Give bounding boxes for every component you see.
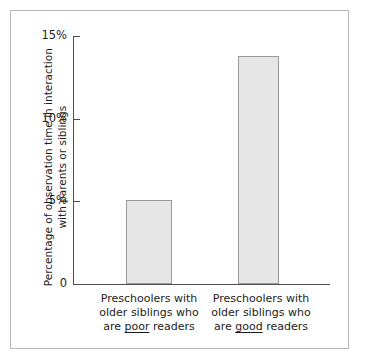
- cat-1-emphasis: good: [235, 320, 262, 333]
- y-tick-label-15-wrap: 15%: [0, 30, 67, 42]
- cat-0-emphasis: poor: [125, 320, 150, 333]
- y-tick-mark-5: [73, 201, 80, 202]
- cat-1-line-1: Preschoolers with: [192, 292, 330, 306]
- y-tick-mark-10: [73, 119, 80, 120]
- cat-0-line-3-pre: are: [103, 320, 124, 333]
- y-tick-mark-15: [73, 36, 80, 37]
- bar-poor-readers[interactable]: [126, 200, 172, 284]
- y-axis-line: [73, 36, 74, 284]
- cat-1-line-3-pre: are: [214, 320, 235, 333]
- cat-1-line-2: older siblings who: [192, 306, 330, 320]
- x-axis-line: [73, 284, 330, 285]
- y-axis-title-line-1: Percentage of observation time in intera…: [41, 42, 55, 292]
- figure: 15% 10% 5% 0 Preschoolers with older sib…: [0, 0, 365, 364]
- y-tick-label-15: 15%: [41, 30, 67, 42]
- y-axis-title: Percentage of observation time in intera…: [41, 42, 69, 292]
- cat-0-line-3-post: readers: [149, 320, 194, 333]
- y-axis-title-line-2: with parents or siblings: [55, 42, 69, 292]
- cat-1-line-3: are good readers: [192, 320, 330, 334]
- cat-1-line-3-post: readers: [263, 320, 308, 333]
- bar-chart-plot-area: 15% 10% 5% 0 Preschoolers with older sib…: [0, 0, 365, 364]
- x-category-label-good-readers: Preschoolers with older siblings who are…: [192, 292, 330, 334]
- bar-good-readers[interactable]: [238, 56, 279, 284]
